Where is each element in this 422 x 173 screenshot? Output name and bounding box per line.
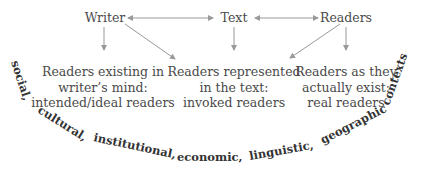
desc-middle: Readers represented in the text: invoked… [167,64,300,110]
svg-text:actually exist:: actually exist: [302,80,390,95]
context-institutional: institutional, [92,130,177,161]
node-readers: Readers [320,10,372,25]
desc-left: Readers existing in writer’s mind: inten… [31,64,175,110]
diagram-canvas: Writer Text Readers Readers existing in … [0,0,422,173]
context-linguistic: linguistic, [248,138,314,163]
svg-text:writer’s mind:: writer’s mind: [58,80,148,95]
node-text: Text [221,10,248,25]
arrow-readers-to-invoked [290,24,340,58]
arrow-writer-to-invoked [125,24,175,59]
context-social: social, [8,59,34,103]
svg-text:Readers represented: Readers represented [167,64,300,79]
node-writer: Writer [85,10,126,25]
svg-text:Readers as they: Readers as they [295,64,397,79]
svg-text:in the text:: in the text: [199,80,268,95]
svg-text:Readers existing in: Readers existing in [42,64,164,79]
svg-text:invoked readers: invoked readers [183,95,285,110]
reader-diagram: Writer Text Readers Readers existing in … [0,0,422,173]
context-economic: economic, [177,150,243,164]
